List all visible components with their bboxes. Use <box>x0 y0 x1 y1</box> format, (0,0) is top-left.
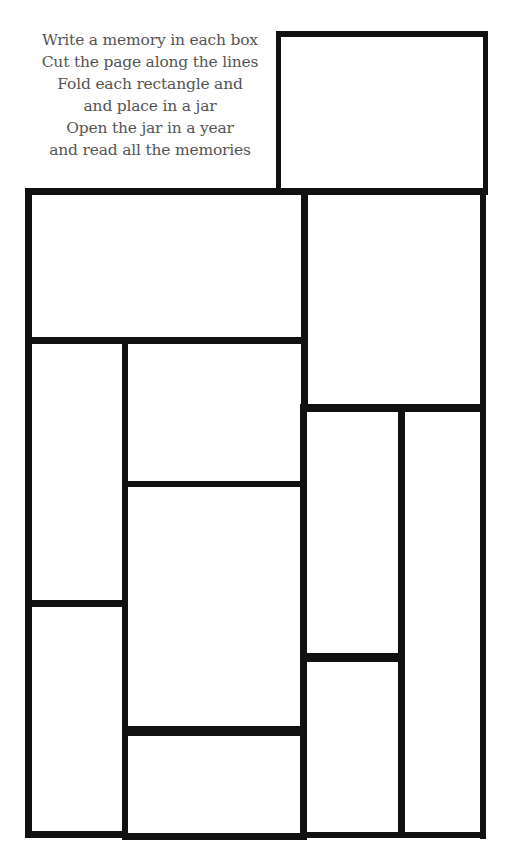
cut-line <box>398 404 405 838</box>
memory-box-right-outer-tall <box>405 412 480 832</box>
instruction-line: and read all the memories <box>30 139 270 161</box>
cut-line <box>122 337 128 840</box>
cut-line <box>25 188 32 838</box>
cut-line <box>300 404 307 840</box>
cut-line <box>122 726 307 736</box>
instructions-text: Write a memory in each box Cut the page … <box>30 29 270 161</box>
memory-box-top-left-wide <box>32 195 301 337</box>
cut-line <box>300 404 486 412</box>
memory-box-middle-center <box>128 487 300 726</box>
memory-box-right-inner-upper <box>307 412 398 653</box>
memory-box-right-inner-lower <box>307 662 398 833</box>
cut-line <box>25 337 308 344</box>
cut-line <box>300 653 405 662</box>
cut-line <box>300 832 486 838</box>
memory-box-left-column-upper <box>32 344 122 600</box>
memory-box-top-right <box>281 37 483 188</box>
cut-line <box>25 831 128 838</box>
memory-box-left-column-lower <box>32 607 122 831</box>
cut-line <box>483 31 488 194</box>
cut-line <box>480 188 486 839</box>
cut-line <box>25 600 128 607</box>
cut-line <box>276 31 488 37</box>
memory-box-middle-bottom <box>128 736 300 833</box>
memory-box-right-upper <box>308 195 480 404</box>
cut-line <box>301 188 308 408</box>
cut-line <box>25 188 488 195</box>
instruction-line: Write a memory in each box <box>30 29 270 51</box>
instruction-line: Open the jar in a year <box>30 117 270 139</box>
cut-line <box>122 481 307 487</box>
instruction-line: Cut the page along the lines <box>30 51 270 73</box>
memory-box-middle-upper <box>128 344 300 481</box>
cut-line <box>122 833 307 840</box>
cut-line <box>276 31 281 194</box>
instruction-line: Fold each rectangle and <box>30 73 270 95</box>
instruction-line: and place in a jar <box>30 95 270 117</box>
